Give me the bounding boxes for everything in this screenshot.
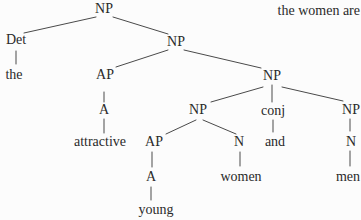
tree-edges-layer: [0, 0, 361, 220]
tree-edge-np1-ap1: [116, 50, 168, 67]
tree-node-a-1: A: [99, 103, 109, 117]
tree-edge-np2-np3: [211, 87, 263, 102]
tree-leaf-young: young: [139, 203, 174, 217]
tree-node-ap-2: AP: [145, 135, 163, 149]
tree-node-np-coord: NP: [263, 69, 281, 83]
tree-node-np-left-conjunct: NP: [189, 103, 207, 117]
tree-node-np-root: NP: [95, 2, 113, 16]
tree-edge-np3-ap2: [166, 120, 196, 134]
tree-edge-np-root-np1: [113, 17, 168, 34]
tree-edge-np1-np2: [184, 50, 261, 68]
tree-leaf-attractive: attractive: [74, 135, 126, 149]
tree-node-a-2: A: [146, 170, 156, 184]
tree-node-conj: conj: [261, 104, 285, 118]
tree-leaf-the: the: [5, 68, 22, 82]
tree-node-ap-1: AP: [96, 68, 114, 82]
tree-node-np-right-conjunct: NP: [342, 103, 360, 117]
tree-leaf-women: women: [220, 170, 261, 184]
tree-node-n-1: N: [234, 135, 244, 149]
tree-edge-np3-n1: [203, 120, 236, 134]
tree-node-det: Det: [6, 33, 26, 47]
tree-leaf-men: men: [336, 170, 360, 184]
syntax-tree-figure: NP Det the NP AP A attractive NP NP AP A…: [0, 0, 361, 220]
tree-node-np-1: NP: [167, 35, 185, 49]
tree-leaf-and: and: [265, 135, 285, 149]
tree-node-n-2: N: [346, 135, 356, 149]
tree-edge-np-root-det: [24, 17, 96, 33]
tree-edge-np2-np4: [282, 87, 343, 101]
context-sentence-fragment: the women are: [278, 4, 360, 18]
